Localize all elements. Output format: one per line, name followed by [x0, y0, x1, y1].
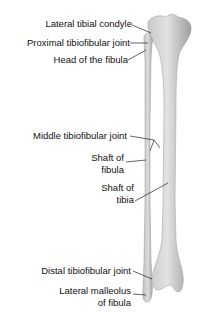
label-shaft-of-fibula-line2: fibula — [101, 164, 124, 175]
label-lateral-malleolus-line1: Lateral malleolus — [59, 285, 131, 296]
label-middle-tibiofibular-joint: Middle tibiofibular joint — [33, 130, 127, 141]
label-shaft-of-tibia-line1: Shaft of — [101, 182, 134, 193]
fibula — [143, 33, 153, 302]
label-lateral-tibial-condyle: Lateral tibial condyle — [45, 18, 132, 29]
label-lateral-malleolus-line2: of fibula — [98, 297, 131, 308]
tibia-fibula-diagram: Lateral tibial condyle Proximal tibiofib… — [0, 0, 218, 313]
label-distal-tibiofibular-joint: Distal tibiofibular joint — [41, 265, 131, 276]
label-shaft-of-tibia-line2: tibia — [117, 194, 134, 205]
tibia — [148, 14, 191, 292]
label-shaft-of-fibula-line1: Shaft of — [91, 152, 124, 163]
label-proximal-tibiofibular-joint: Proximal tibiofibular joint — [27, 37, 130, 48]
label-head-of-fibula: Head of the fibula — [54, 54, 128, 65]
